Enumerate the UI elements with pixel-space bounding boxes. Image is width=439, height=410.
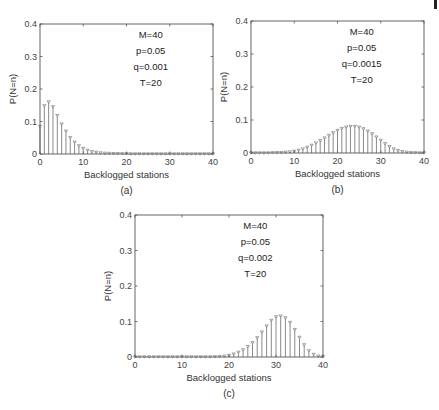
- y-tick-label: 0.3: [235, 49, 248, 59]
- y-axis-label: P(N=n): [102, 271, 113, 301]
- x-tick-label: 30: [271, 360, 281, 370]
- y-tick-label: 0.1: [235, 115, 248, 125]
- x-tick-label: 10: [177, 360, 187, 370]
- parameter-annotation: p=0.05: [347, 42, 376, 53]
- x-tick-label: 20: [224, 360, 234, 370]
- y-tick-label: 0.1: [24, 117, 37, 127]
- chart-panel-c: 01020304000.10.20.30.4Backlogged station…: [102, 210, 328, 399]
- parameter-annotation: M=40: [139, 29, 163, 40]
- stem-charts-figure: 01020304000.10.20.30.4Backlogged station…: [0, 0, 439, 410]
- x-tick-label: 0: [37, 157, 42, 167]
- parameter-annotation: p=0.05: [136, 45, 165, 56]
- panel-caption: (a): [120, 185, 132, 196]
- y-tick-label: 0.3: [119, 246, 132, 256]
- x-tick-label: 40: [208, 157, 218, 167]
- stem-series: [133, 315, 324, 358]
- x-tick-label: 0: [132, 360, 137, 370]
- parameter-annotation: q=0.001: [133, 61, 168, 72]
- y-axis-label: P(N=n): [7, 74, 18, 104]
- y-tick-label: 0: [127, 352, 132, 362]
- parameter-annotation: T=20: [140, 77, 162, 88]
- parameter-annotation: p=0.05: [241, 236, 270, 247]
- x-tick-label: 40: [318, 360, 328, 370]
- x-tick-label: 40: [419, 156, 429, 166]
- y-tick-label: 0.2: [235, 82, 248, 92]
- x-tick-label: 0: [248, 156, 253, 166]
- x-tick-label: 30: [376, 156, 386, 166]
- stem-series: [38, 101, 214, 155]
- parameter-annotation: T=20: [244, 268, 266, 279]
- x-tick-label: 20: [332, 156, 342, 166]
- y-tick-label: 0.4: [235, 16, 248, 26]
- x-tick-label: 30: [165, 157, 175, 167]
- chart-panel-b: 01020304000.10.20.30.4Backlogged station…: [218, 16, 429, 195]
- parameter-annotation: T=20: [351, 74, 373, 85]
- y-tick-label: 0.2: [24, 84, 37, 94]
- y-axis-label: P(N=n): [218, 72, 229, 102]
- stem-series: [249, 125, 425, 154]
- x-tick-label: 10: [78, 157, 88, 167]
- y-tick-label: 0: [243, 148, 248, 158]
- x-axis-label: Backlogged stations: [84, 169, 169, 180]
- y-tick-label: 0: [32, 149, 37, 159]
- y-tick-label: 0.3: [24, 52, 37, 62]
- y-tick-label: 0.1: [119, 317, 132, 327]
- parameter-annotation: q=0.0015: [342, 58, 382, 69]
- y-tick-label: 0.2: [119, 281, 132, 291]
- chart-panel-a: 01020304000.10.20.30.4Backlogged station…: [7, 19, 218, 196]
- panel-caption: (b): [331, 184, 343, 195]
- x-tick-label: 10: [289, 156, 299, 166]
- parameter-annotation: M=40: [243, 220, 267, 231]
- x-tick-label: 20: [121, 157, 131, 167]
- panel-caption: (c): [223, 388, 235, 399]
- y-tick-label: 0.4: [119, 210, 132, 220]
- parameter-annotation: M=40: [350, 26, 374, 37]
- parameter-annotation: q=0.002: [238, 252, 273, 263]
- y-tick-label: 0.4: [24, 19, 37, 29]
- x-axis-label: Backlogged stations: [186, 372, 271, 383]
- x-axis-label: Backlogged stations: [295, 168, 380, 179]
